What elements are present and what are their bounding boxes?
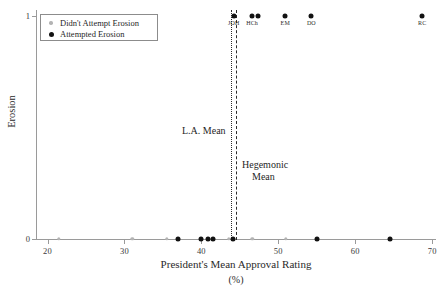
data-point-label: EM xyxy=(281,20,290,26)
data-point xyxy=(230,237,235,242)
data-point xyxy=(57,237,60,240)
reference-line-hegemonic-mean xyxy=(236,10,237,240)
x-tick-label: 70 xyxy=(428,246,437,256)
data-point xyxy=(314,237,319,242)
chart-legend: Didn't Attempt Erosion Attempted Erosion xyxy=(40,14,158,41)
scatter-plot-figure: 20304050607001 Erosion President's Mean … xyxy=(0,0,443,296)
annotation-la-mean: L.A. Mean xyxy=(162,125,226,137)
y-tick-mark xyxy=(32,16,36,17)
x-axis-units: (%) xyxy=(36,274,436,285)
data-point-label: JOH xyxy=(228,20,239,26)
y-tick-label: 1 xyxy=(20,11,30,21)
x-axis-title: President's Mean Approval Rating xyxy=(36,258,436,270)
x-tick-mark xyxy=(278,240,279,244)
x-tick-mark xyxy=(432,240,433,244)
data-point xyxy=(256,14,261,19)
black-dot-icon xyxy=(46,32,56,37)
y-tick-label: 0 xyxy=(20,234,30,244)
x-tick-mark xyxy=(355,240,356,244)
reference-line-la-mean xyxy=(231,10,232,240)
x-tick-mark xyxy=(48,240,49,244)
legend-item-attempted: Attempted Erosion xyxy=(46,29,152,39)
data-point xyxy=(250,237,253,240)
legend-label-didnt-attempt: Didn't Attempt Erosion xyxy=(60,18,139,28)
data-point xyxy=(176,237,181,242)
gray-dot-icon xyxy=(46,21,56,24)
x-tick-label: 30 xyxy=(120,246,129,256)
data-point xyxy=(250,14,255,19)
x-tick-label: 40 xyxy=(197,246,206,256)
data-point xyxy=(284,237,287,240)
y-axis-title: Erosion xyxy=(6,72,17,152)
data-point xyxy=(231,14,236,19)
data-point xyxy=(420,14,425,19)
data-point xyxy=(309,14,314,19)
legend-item-didnt-attempt: Didn't Attempt Erosion xyxy=(46,18,152,28)
data-point-label: HCh xyxy=(246,20,258,26)
annotation-hegemonic-line1: Hegemonic xyxy=(242,159,304,171)
annotation-hegemonic-mean: HegemonicMean xyxy=(242,159,304,183)
data-point-label: RC xyxy=(418,20,426,26)
data-point xyxy=(387,237,392,242)
x-tick-mark xyxy=(124,240,125,244)
y-tick-mark xyxy=(32,239,36,240)
y-axis-line xyxy=(36,10,37,240)
x-tick-label: 50 xyxy=(274,246,283,256)
data-point xyxy=(199,237,204,242)
data-point xyxy=(283,14,288,19)
data-point xyxy=(210,237,215,242)
data-point xyxy=(130,237,133,240)
data-point xyxy=(165,237,168,240)
x-tick-label: 60 xyxy=(351,246,360,256)
data-point-label: DO xyxy=(307,20,316,26)
legend-label-attempted: Attempted Erosion xyxy=(60,29,124,39)
x-tick-label: 20 xyxy=(43,246,52,256)
annotation-hegemonic-line2: Mean xyxy=(242,171,304,183)
